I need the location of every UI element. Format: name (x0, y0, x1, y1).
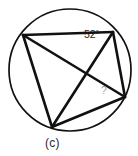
circle-geometry-drawing (0, 0, 138, 156)
figure-caption: (c) (45, 137, 60, 149)
geometry-figure: 52° ? (c) (0, 0, 138, 156)
angle-label-known: 52° (84, 29, 99, 40)
angle-label-unknown: ? (101, 85, 107, 96)
chord-diagonal-b-d (52, 32, 113, 127)
chord-a-b (23, 32, 113, 35)
chord-group (23, 32, 125, 127)
circle-outline (9, 9, 131, 131)
